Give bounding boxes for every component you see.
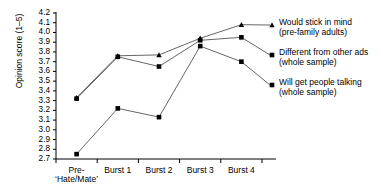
legend-leader-line <box>241 37 270 55</box>
data-point-marker <box>157 64 162 69</box>
data-point-marker <box>198 38 203 43</box>
series-line <box>77 25 242 98</box>
legend-leader-line <box>241 62 270 85</box>
data-point-marker <box>157 115 162 120</box>
data-point-marker <box>74 96 79 101</box>
chart-figure: Opinion score (1–5) 4.24.14.03.93.83.73.… <box>0 0 383 192</box>
data-point-marker <box>74 152 79 157</box>
legend-marker <box>270 83 275 88</box>
data-point-marker <box>198 44 203 49</box>
series-line <box>77 46 242 154</box>
legend-marker <box>269 22 274 27</box>
legend-marker <box>270 53 275 58</box>
data-point-marker <box>116 106 121 111</box>
data-point-marker <box>239 59 244 64</box>
data-point-marker <box>239 35 244 40</box>
data-point-marker <box>116 55 121 60</box>
chart-plot-area <box>0 0 383 192</box>
